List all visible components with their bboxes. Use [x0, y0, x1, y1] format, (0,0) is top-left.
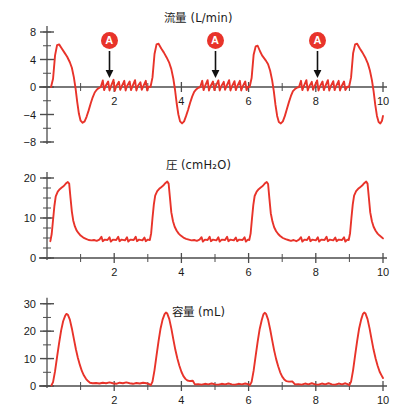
y-tick-label: 0 [30, 252, 36, 264]
x-tick-label: 6 [246, 266, 252, 278]
x-tick-label: 8 [313, 394, 319, 406]
x-tick-label: 6 [246, 394, 252, 406]
waveform-trace-flow [51, 44, 383, 124]
y-tick-label: −4 [23, 109, 36, 121]
x-tick-label: 8 [313, 95, 319, 107]
y-tick-label: 10 [24, 353, 36, 365]
x-tick-label: 10 [377, 95, 389, 107]
x-tick-label: 4 [178, 394, 184, 406]
y-tick-label: −8 [23, 136, 36, 148]
y-tick-label: 30 [24, 298, 36, 310]
x-tick-label: 4 [178, 95, 184, 107]
y-tick-label: 20 [24, 325, 36, 337]
panel-volume-plot: 0102030246810 [0, 287, 397, 415]
y-tick-label: 10 [24, 212, 36, 224]
y-tick-label: 0 [30, 380, 36, 392]
x-tick-label: 2 [111, 95, 117, 107]
x-tick-label: 10 [377, 266, 389, 278]
y-tick-label: 20 [24, 172, 36, 184]
ventilator-waveform-figure: 流量 (L/min) −8−4048246810 AAA 圧 (cmH₂O) 0… [0, 0, 397, 415]
waveform-trace-volume [51, 313, 383, 386]
panel-flow: 流量 (L/min) −8−4048246810 AAA [0, 0, 397, 150]
x-tick-label: 8 [313, 266, 319, 278]
panel-volume: 容量 (mL) 0102030246810 [0, 287, 397, 415]
panel-pressure: 圧 (cmH₂O) 01020246810 [0, 150, 397, 287]
x-tick-label: 6 [246, 95, 252, 107]
x-tick-label: 4 [178, 266, 184, 278]
panel-flow-plot: −8−4048246810 [0, 0, 397, 150]
x-tick-label: 2 [111, 394, 117, 406]
x-tick-label: 10 [377, 394, 389, 406]
waveform-trace-pressure [50, 182, 383, 242]
x-tick-label: 2 [111, 266, 117, 278]
y-tick-label: 8 [30, 26, 36, 38]
y-tick-label: 4 [30, 54, 36, 66]
y-tick-label: 0 [30, 81, 36, 93]
panel-pressure-plot: 01020246810 [0, 150, 397, 287]
